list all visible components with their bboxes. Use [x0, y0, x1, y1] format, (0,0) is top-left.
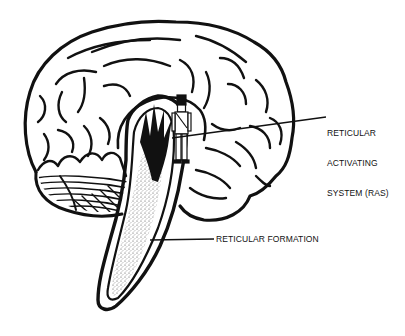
guard-figure [172, 95, 191, 163]
rf-leader-line [150, 239, 214, 240]
ras-label-line3: SYSTEM (RAS) [327, 188, 389, 198]
ras-label: RETICULAR ACTIVATING SYSTEM (RAS) [327, 108, 389, 208]
ras-leader-line [172, 117, 326, 138]
reticular-formation-label: RETICULAR FORMATION [216, 234, 319, 244]
cerebellum-folia [36, 176, 128, 214]
ras-label-line2: ACTIVATING [327, 158, 389, 168]
ras-label-line1: RETICULAR [327, 128, 389, 138]
